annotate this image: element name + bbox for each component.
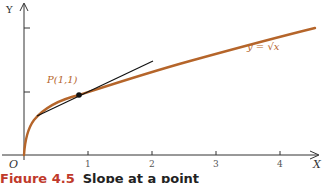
figure-title: Slope at a point bbox=[83, 171, 199, 183]
x-tick-label-3: 3 bbox=[213, 159, 219, 169]
curve-label: y = √x bbox=[246, 41, 280, 52]
origin-label: O bbox=[9, 158, 18, 171]
point-p bbox=[76, 92, 82, 98]
x-tick-label-2: 2 bbox=[149, 159, 155, 169]
x-tick-label-1: 1 bbox=[85, 159, 91, 169]
figure-number: Figure 4.5 bbox=[0, 171, 75, 183]
point-label: P(1,1) bbox=[46, 74, 78, 85]
y-axis-label: Y bbox=[5, 4, 13, 15]
x-axis-label: X bbox=[312, 158, 322, 171]
chart-svg: Y X O 1 2 3 4 P(1,1) y = √x bbox=[0, 0, 325, 183]
x-tick-label-4: 4 bbox=[277, 159, 283, 169]
figure-caption: Figure 4.5Slope at a point bbox=[0, 172, 199, 183]
tangent-line bbox=[37, 61, 153, 116]
